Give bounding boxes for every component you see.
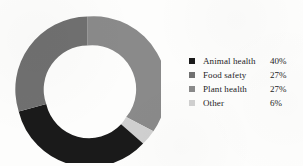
legend-item-animal-health[interactable]: Animal health 40% xyxy=(188,54,300,68)
legend-label: Other xyxy=(203,96,224,110)
square-swatch-icon xyxy=(189,58,195,64)
donut-slice-food-safety[interactable] xyxy=(15,17,87,112)
legend-label: Animal health xyxy=(203,54,256,68)
square-swatch-icon xyxy=(189,72,195,78)
donut-chart-svg xyxy=(14,16,161,163)
legend-item-plant-health[interactable]: Plant health 27% xyxy=(188,82,300,96)
legend-value: 40% xyxy=(270,54,287,68)
legend-value: 6% xyxy=(270,96,282,110)
legend-label: Plant health xyxy=(203,82,247,96)
donut-slice-animal-health[interactable] xyxy=(19,104,143,163)
donut-slice-plant-health[interactable] xyxy=(88,16,162,131)
legend-value: 27% xyxy=(270,82,287,96)
legend-item-other[interactable]: Other 6% xyxy=(188,96,300,110)
legend-item-food-safety[interactable]: Food safety 27% xyxy=(188,68,300,82)
legend-label: Food safety xyxy=(203,68,246,82)
legend-value: 27% xyxy=(270,68,287,82)
donut-chart-figure: Animal health 40% Food safety 27% Plant … xyxy=(0,0,303,166)
donut-chart xyxy=(14,16,161,163)
square-swatch-icon xyxy=(189,86,195,92)
square-swatch-icon xyxy=(189,100,195,106)
chart-legend: Animal health 40% Food safety 27% Plant … xyxy=(188,54,300,110)
